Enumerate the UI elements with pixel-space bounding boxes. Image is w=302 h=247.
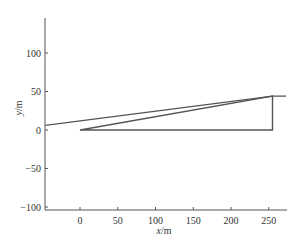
x-tick-label: 200 [224, 215, 239, 226]
x-tick-label: 150 [186, 215, 201, 226]
y-tick-label: −100 [20, 202, 41, 213]
y-tick-label: 50 [31, 86, 41, 97]
x-tick-label: 250 [261, 215, 276, 226]
x-tick-label: 50 [113, 215, 123, 226]
y-tick-label: −50 [25, 163, 41, 174]
series-triangle [80, 96, 273, 130]
x-tick-label: 0 [78, 215, 83, 226]
x-axis-title: x/m [155, 225, 171, 236]
y-axis-ticks: −100−50050100 [20, 48, 48, 213]
chart: 050100150200250 −100−50050100 x/m y/m [0, 0, 302, 247]
y-tick-label: 100 [26, 48, 41, 59]
plot-series [45, 96, 286, 130]
y-tick-label: 0 [36, 125, 41, 136]
y-axis-title: y/m [13, 100, 24, 116]
